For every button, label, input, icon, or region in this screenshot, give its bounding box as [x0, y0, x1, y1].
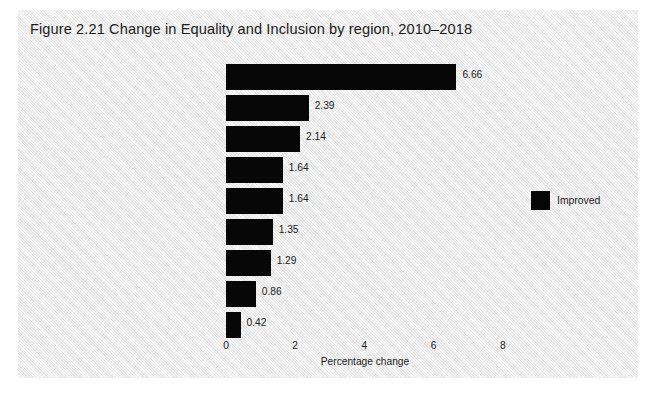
bar [226, 157, 283, 183]
legend-swatch-improved [531, 191, 550, 210]
bar [226, 188, 283, 214]
bar [226, 64, 456, 90]
bar [226, 126, 300, 152]
x-axis: Percentage change 02468 [0, 340, 656, 380]
bar [226, 250, 271, 276]
bar [226, 281, 256, 307]
x-tick-label: 2 [292, 340, 298, 351]
legend: Improved [531, 191, 600, 210]
bar [226, 95, 309, 121]
bar-value-label: 2.39 [315, 100, 335, 111]
legend-label-improved: Improved [557, 195, 600, 206]
bar-value-label: 1.64 [289, 162, 309, 173]
x-axis-label: Percentage change [321, 356, 409, 367]
x-tick-label: 4 [362, 340, 368, 351]
bar [226, 219, 273, 245]
x-tick-label: 6 [431, 340, 437, 351]
bar-value-label: 1.64 [289, 193, 309, 204]
bar-value-label: 6.66 [462, 69, 482, 80]
bar-value-label: 1.29 [277, 255, 297, 266]
bar [226, 312, 241, 338]
bar-value-label: 0.42 [247, 317, 267, 328]
bar-value-label: 0.86 [262, 286, 282, 297]
bar-value-label: 1.35 [279, 224, 299, 235]
x-tick-label: 8 [500, 340, 506, 351]
figure-container: Figure 2.21 Change in Equality and Inclu… [0, 0, 656, 402]
x-tick-label: 0 [223, 340, 229, 351]
bar-value-label: 2.14 [306, 131, 326, 142]
